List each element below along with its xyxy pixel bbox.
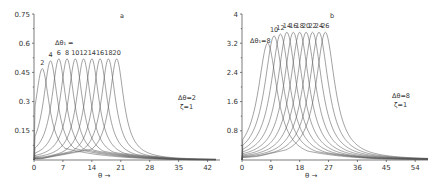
peak-label: 14 bbox=[88, 49, 96, 57]
peak-label: 2 bbox=[40, 59, 44, 67]
peak-label: 18 bbox=[104, 49, 112, 57]
panel-a-label: a bbox=[120, 12, 124, 20]
y-tick-label: 0.3 bbox=[19, 98, 30, 106]
y-tick-label: 0.75 bbox=[14, 11, 30, 19]
panel-a: 0.150.30.450.60.75 071421283542 24681012… bbox=[14, 11, 220, 181]
panel-b-label: b bbox=[330, 12, 334, 20]
x-tick-label: 36 bbox=[353, 164, 362, 172]
peak-label: 6 bbox=[57, 49, 61, 57]
x-tick-label: 28 bbox=[145, 164, 154, 172]
x-tick-label: 35 bbox=[174, 164, 183, 172]
y-tick-label: 3.2 bbox=[227, 40, 238, 48]
peak-label: 20 bbox=[113, 49, 121, 57]
panel-b-x-label: θ → bbox=[305, 172, 318, 180]
panel-a-y-ticks: 0.150.30.450.60.75 bbox=[14, 11, 34, 146]
x-tick-label: 0 bbox=[32, 164, 36, 172]
x-tick-label: 42 bbox=[203, 164, 212, 172]
panel-b-annotation-2: ζ=1 bbox=[394, 101, 407, 109]
panel-a-x-label: θ → bbox=[98, 172, 111, 180]
panel-b-y-ticks: 0.81.62.43.24 bbox=[227, 11, 242, 146]
y-tick-label: 0.45 bbox=[14, 69, 30, 77]
panel-a-legend-title: Δθ₁ = bbox=[55, 39, 74, 47]
x-tick-label: 54 bbox=[411, 164, 420, 172]
peak-label: 4 bbox=[48, 51, 52, 59]
panel-b: 0.81.62.43.24 091827364554 1012141618202… bbox=[227, 11, 428, 181]
panel-a-x-ticks: 071421283542 bbox=[32, 160, 212, 172]
y-tick-label: 4 bbox=[234, 11, 239, 19]
panel-b-x-ticks: 091827364554 bbox=[240, 160, 420, 172]
x-tick-label: 18 bbox=[295, 164, 304, 172]
x-tick-label: 21 bbox=[116, 164, 125, 172]
series-curve-2 bbox=[34, 69, 216, 160]
chart-figure: 0.150.30.450.60.75 071421283542 24681012… bbox=[0, 0, 446, 185]
x-tick-label: 7 bbox=[61, 164, 65, 172]
y-tick-label: 2.4 bbox=[227, 69, 239, 77]
y-tick-label: 0.6 bbox=[19, 40, 31, 48]
panel-a-annotation-2: ζ=1 bbox=[180, 103, 193, 111]
x-tick-label: 0 bbox=[240, 164, 244, 172]
panel-b-legend-prefix: Δθ₁=8 bbox=[250, 37, 271, 45]
peak-label: 26 bbox=[321, 22, 329, 30]
y-tick-label: 1.6 bbox=[227, 98, 239, 106]
peak-label: 10 bbox=[71, 49, 79, 57]
panel-b-annotation-1: Δθ=8 bbox=[392, 92, 410, 100]
y-tick-label: 0.15 bbox=[14, 127, 30, 135]
x-tick-label: 27 bbox=[324, 164, 333, 172]
peak-label: 8 bbox=[65, 49, 69, 57]
y-tick-label: 0.8 bbox=[227, 127, 238, 135]
x-tick-label: 14 bbox=[87, 164, 96, 172]
x-tick-label: 45 bbox=[382, 164, 391, 172]
peak-label: 16 bbox=[96, 49, 104, 57]
peak-label: 12 bbox=[79, 49, 87, 57]
panel-a-annotation-1: Δθ=2 bbox=[178, 94, 196, 102]
x-tick-label: 9 bbox=[269, 164, 273, 172]
